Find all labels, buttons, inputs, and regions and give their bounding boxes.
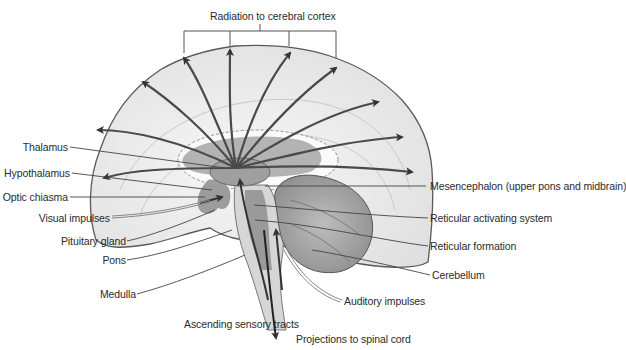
- label-mesencephalon: Mesencephalon (upper pons and midbrain): [430, 180, 626, 192]
- label-optic-chiasma: Optic chiasma: [3, 191, 68, 203]
- label-cerebellum: Cerebellum: [432, 269, 485, 281]
- label-medulla: Medulla: [100, 288, 136, 300]
- label-pituitary-gland: Pituitary gland: [61, 235, 126, 247]
- label-visual-impulses: Visual impulses: [39, 212, 110, 224]
- label-auditory-impulses: Auditory impulses: [344, 295, 425, 307]
- label-radiation-to-cerebral-cortex: Radiation to cerebral cortex: [210, 10, 336, 22]
- label-reticular-formation: Reticular formation: [430, 240, 516, 252]
- label-hypothalamus: Hypothalamus: [4, 167, 70, 179]
- label-thalamus: Thalamus: [23, 141, 68, 153]
- label-projections-to-spinal-cord: Projections to spinal cord: [296, 333, 411, 345]
- label-pons: Pons: [102, 254, 126, 266]
- label-ascending-sensory-tracts: Ascending sensory tracts: [184, 318, 299, 330]
- label-reticular-activating-system: Reticular activating system: [430, 212, 552, 224]
